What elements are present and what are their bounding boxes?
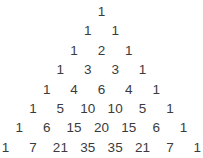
list-item: 1 xyxy=(156,99,183,118)
list-item: 3 xyxy=(102,60,129,79)
list-item: 3 xyxy=(74,60,101,79)
list-item: 15 xyxy=(60,118,87,137)
table-row: 1 6 15 20 15 6 1 xyxy=(6,118,198,137)
list-item: 7 xyxy=(19,138,46,157)
list-item: 1 xyxy=(6,118,33,137)
list-item: 2 xyxy=(88,41,115,60)
list-item: 7 xyxy=(156,138,183,157)
list-item: 1 xyxy=(184,138,203,157)
table-row: 1 7 21 35 35 21 7 1 xyxy=(0,138,203,157)
list-item: 6 xyxy=(33,118,60,137)
list-item: 5 xyxy=(129,99,156,118)
list-item: 21 xyxy=(47,138,74,157)
list-item: 4 xyxy=(60,80,87,99)
list-item: 1 xyxy=(0,138,19,157)
list-item: 1 xyxy=(115,41,142,60)
list-item: 1 xyxy=(60,41,87,60)
table-row: 1 4 6 4 1 xyxy=(33,80,170,99)
list-item: 1 xyxy=(74,21,101,40)
list-item: 10 xyxy=(102,99,129,118)
list-item: 20 xyxy=(88,118,115,137)
list-item: 5 xyxy=(47,99,74,118)
list-item: 1 xyxy=(143,80,170,99)
list-item: 35 xyxy=(102,138,129,157)
list-item: 1 xyxy=(19,99,46,118)
table-row: 1 1 xyxy=(74,21,129,40)
list-item: 6 xyxy=(143,118,170,137)
table-row: 1 2 1 xyxy=(60,41,142,60)
pascals-triangle: 1 1 1 1 2 1 1 3 3 1 1 4 6 4 1 1 5 10 10 … xyxy=(0,0,203,158)
list-item: 1 xyxy=(170,118,197,137)
list-item: 35 xyxy=(74,138,101,157)
list-item: 21 xyxy=(129,138,156,157)
list-item: 10 xyxy=(74,99,101,118)
list-item: 1 xyxy=(47,60,74,79)
table-row: 1 3 3 1 xyxy=(47,60,157,79)
list-item: 1 xyxy=(33,80,60,99)
list-item: 4 xyxy=(115,80,142,99)
list-item: 1 xyxy=(102,21,129,40)
table-row: 1 5 10 10 5 1 xyxy=(19,99,183,118)
list-item: 1 xyxy=(129,60,156,79)
list-item: 1 xyxy=(88,2,115,21)
list-item: 15 xyxy=(115,118,142,137)
table-row: 1 xyxy=(88,2,115,21)
list-item: 6 xyxy=(88,80,115,99)
